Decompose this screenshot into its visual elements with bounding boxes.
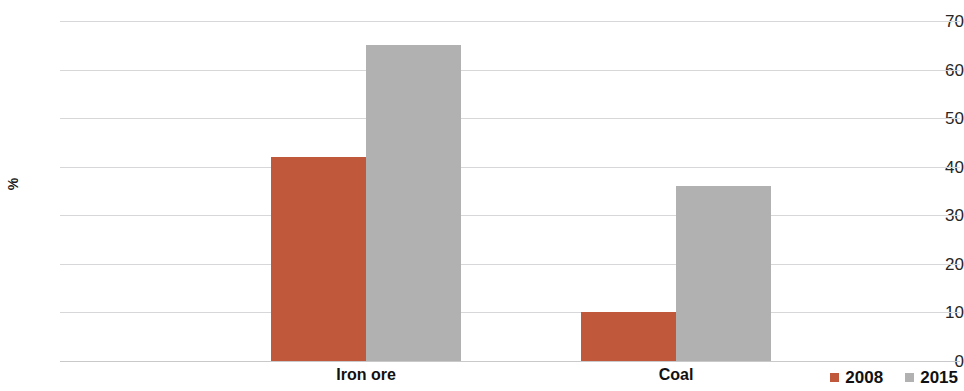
gridline — [60, 312, 960, 313]
y-axis-title: % — [5, 173, 21, 195]
legend-item-2008[interactable]: 2008 — [830, 369, 883, 386]
category-label-coal: Coal — [659, 366, 694, 384]
legend: 20082015 — [830, 369, 958, 386]
legend-item-2015[interactable]: 2015 — [905, 369, 958, 386]
gridline — [60, 70, 960, 71]
bar-iron-ore-2008 — [271, 157, 366, 361]
category-label-iron-ore: Iron ore — [336, 366, 396, 384]
bar-iron-ore-2015 — [366, 45, 461, 361]
legend-label: 2015 — [920, 369, 958, 386]
gridline — [60, 264, 960, 265]
legend-label: 2008 — [845, 369, 883, 386]
bar-chart: % 010203040506070 Iron oreCoal 20082015 — [0, 0, 964, 391]
legend-swatch-icon — [905, 373, 914, 382]
bar-coal-2015 — [676, 186, 771, 361]
gridline — [60, 215, 960, 216]
plot-area — [60, 21, 960, 361]
legend-swatch-icon — [830, 373, 839, 382]
bar-coal-2008 — [581, 312, 676, 361]
gridline — [60, 21, 960, 22]
gridline — [60, 118, 960, 119]
gridline — [60, 167, 960, 168]
axis-baseline — [60, 361, 960, 362]
